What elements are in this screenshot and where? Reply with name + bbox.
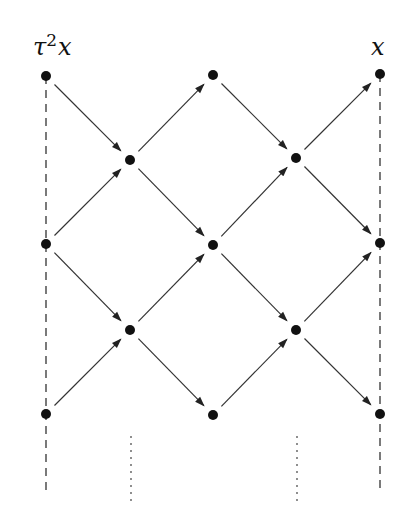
arrow-d2-to-e3 [304,338,370,404]
node-e1 [375,69,385,79]
node-c3 [208,410,218,420]
arrow-b1-to-c2 [138,169,204,236]
arrow-c2-to-d2 [221,254,287,321]
node-e2 [375,238,385,248]
quiver-diagram: τ2x x [0,0,409,516]
dashed-lines [46,74,380,492]
arrow-c2-to-d1 [221,167,287,236]
arrow-a1-to-b1 [54,84,120,150]
node-c1 [208,70,218,80]
arrow-c1-to-d1 [221,83,286,148]
arrow-d2-to-e2 [304,252,371,321]
arrow-b2-to-c2 [138,254,204,321]
node-b2 [125,325,135,335]
node-c2 [208,240,218,250]
node-e3 [375,409,385,419]
arrow-d1-to-e2 [304,167,370,234]
arrow-a3-to-b2 [54,339,120,405]
label-tau-squared-x: τ2x [33,30,72,61]
arrow-a2-to-b1 [54,169,120,235]
dotted-lines [131,436,297,502]
arrow-b2-to-c3 [138,339,204,406]
arrow-c3-to-d2 [221,339,287,406]
arrow-d1-to-e1 [304,83,370,149]
arrow-b1-to-c1 [138,84,204,151]
node-a2 [41,239,51,249]
node-d2 [291,325,301,335]
node-a1 [41,71,51,81]
node-b1 [125,155,135,165]
node-d1 [291,153,301,163]
node-a3 [41,409,51,419]
arrow-a2-to-b2 [54,253,121,321]
label-x: x [371,33,385,61]
